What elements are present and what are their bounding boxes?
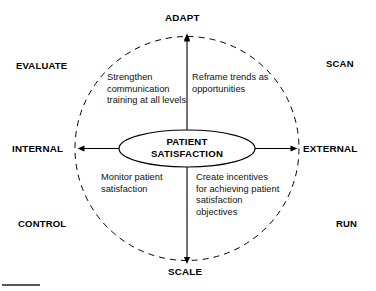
quadrant-label-run: RUN [336,218,357,229]
arrowhead-left [78,145,85,151]
center-label-line1: PATIENT [117,136,257,148]
quadrant-label-evaluate: EVALUATE [16,60,67,71]
axis-label-scale: SCALE [168,266,202,277]
arrowhead-right [291,145,298,151]
footer-rule [2,284,40,286]
quadrant-note-top-right: Reframe trends as opportunities [192,72,278,95]
quadrant-label-scan: SCAN [326,58,354,69]
center-label-line2: SATISFACTION [117,148,257,160]
quadrant-note-bottom-left: Monitor patient satisfaction [101,172,189,195]
center-label: PATIENT SATISFACTION [117,136,257,159]
axis-label-external: EXTERNAL [303,143,357,154]
quadrant-note-top-left: Strengthen communication training at all… [107,72,191,107]
quadrant-note-bottom-right: Create incentives for achieving patient … [196,172,280,218]
axis-label-adapt: ADAPT [165,12,200,23]
quadrant-label-control: CONTROL [18,218,66,229]
axis-label-internal: INTERNAL [12,143,63,154]
diagram-canvas: PATIENT SATISFACTION ADAPT SCALE INTERNA… [0,0,376,291]
